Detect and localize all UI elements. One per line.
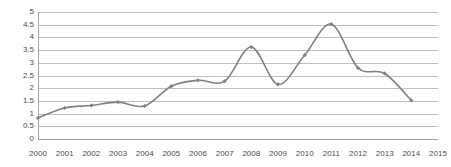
x-tick-label: 2012 [349,149,367,158]
x-tick-label: 2003 [109,149,127,158]
data-point-marker [36,116,40,120]
x-tick-label: 2014 [402,149,420,158]
data-point-marker [89,103,93,107]
x-tick-label: 2011 [323,149,340,158]
series-line [38,24,411,118]
x-tick-label: 2002 [82,149,100,158]
x-tick-label: 2008 [242,149,260,158]
series-layer [0,0,451,167]
x-tick-label: 2013 [376,149,394,158]
series-markers [36,22,414,120]
x-tick-label: 2010 [296,149,314,158]
x-tick-label: 2015 [429,149,447,158]
x-axis-labels: 2000 2001 2002 2003 2004 2005 2006 2007 … [0,149,451,163]
x-tick-label: 2004 [136,149,154,158]
x-tick-label: 2009 [269,149,287,158]
x-tick-label: 2005 [162,149,180,158]
x-tick-label: 2000 [29,149,47,158]
data-point-marker [249,45,253,49]
x-tick-label: 2006 [189,149,207,158]
data-point-marker [196,78,200,82]
x-tick-label: 2007 [216,149,234,158]
x-tick-label: 2001 [56,149,74,158]
line-chart: 5 4.5 4 3.5 3 2.5 2 1.5 1 0.5 0 [0,0,451,167]
data-point-marker [116,100,120,104]
data-point-marker [63,106,67,110]
data-point-marker [143,104,147,108]
